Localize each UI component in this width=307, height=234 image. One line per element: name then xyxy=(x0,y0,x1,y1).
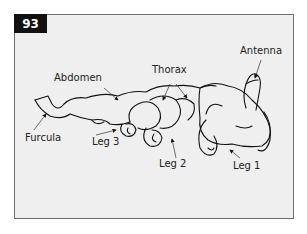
label-furcula: Furcula xyxy=(25,132,61,143)
label-thorax: Thorax xyxy=(152,64,187,75)
label-leg-3: Leg 3 xyxy=(92,136,119,147)
springtail-illustration xyxy=(0,0,307,234)
label-leg-1: Leg 1 xyxy=(233,160,260,171)
label-abdomen: Abdomen xyxy=(54,72,102,83)
label-antenna: Antenna xyxy=(240,45,282,56)
label-leg-2: Leg 2 xyxy=(159,158,186,169)
